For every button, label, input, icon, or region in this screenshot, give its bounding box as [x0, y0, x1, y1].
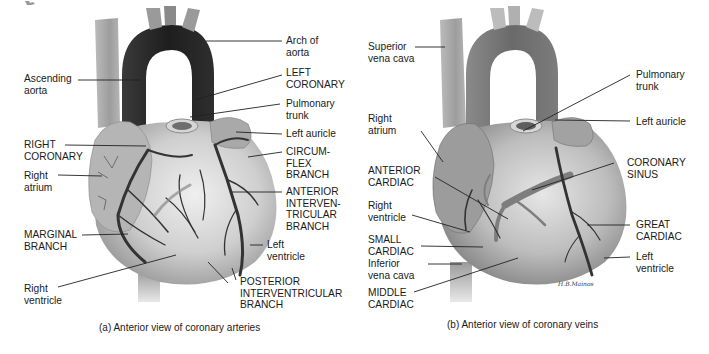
label-small-cardiac: SMALL CARDIAC [368, 234, 414, 257]
label-right-ventricle-b: Right ventricle [368, 200, 406, 223]
svc-a [95, 18, 120, 128]
caption-panel-a: (a) Anterior view of coronary arteries [99, 322, 260, 334]
ivc-b [450, 262, 472, 302]
label-great-cardiac: GREAT CARDIAC [636, 219, 682, 242]
label-superior-vena-cava: Superior vena cava [368, 41, 414, 64]
label-left-ventricle-a: Left ventricle [267, 239, 305, 262]
label-right-atrium-b: Right atrium [368, 113, 396, 136]
label-right-ventricle-a: Right ventricle [24, 283, 62, 306]
label-anterior-cardiac: ANTERIOR CARDIAC [368, 165, 421, 188]
figure: Ascending aorta Arch of aorta LEFT CORON… [0, 0, 709, 354]
label-arch-of-aorta: Arch of aorta [286, 35, 318, 58]
label-pulmonary-trunk-a: Pulmonary trunk [286, 98, 335, 121]
label-posterior-interventricular-branch: POSTERIOR INTERVENTRICULAR BRANCH [240, 276, 342, 311]
label-coronary-sinus: CORONARY SINUS [627, 157, 686, 180]
label-ascending-aorta: Ascending aorta [24, 73, 72, 96]
label-left-auricle-b: Left auricle [636, 116, 686, 128]
label-right-atrium-a: Right atrium [24, 170, 52, 193]
artist-signature: H.B.Mainos [558, 280, 594, 287]
svc-b [440, 18, 466, 128]
label-anterior-interventricular-branch: ANTERIOR INTERVEN- TRICULAR BRANCH [286, 186, 341, 232]
panel-b-heart [433, 6, 627, 302]
panel-a-heart [89, 6, 277, 302]
label-pulmonary-trunk-b: Pulmonary trunk [636, 69, 685, 92]
label-left-ventricle-b: Left ventricle [636, 251, 674, 274]
label-right-coronary: RIGHT CORONARY [24, 139, 83, 162]
caption-panel-b: (b) Anterior view of coronary veins [447, 319, 598, 331]
label-left-auricle-a: Left auricle [286, 128, 336, 140]
label-middle-cardiac: MIDDLE CARDIAC [368, 287, 414, 310]
label-circumflex-branch: CIRCUM- FLEX BRANCH [286, 146, 330, 181]
label-left-coronary: LEFT CORONARY [286, 67, 345, 90]
label-marginal-branch: MARGINAL BRANCH [24, 229, 77, 252]
label-inferior-vena-cava: Inferior vena cava [368, 258, 414, 281]
heart-illustrations [0, 0, 709, 354]
